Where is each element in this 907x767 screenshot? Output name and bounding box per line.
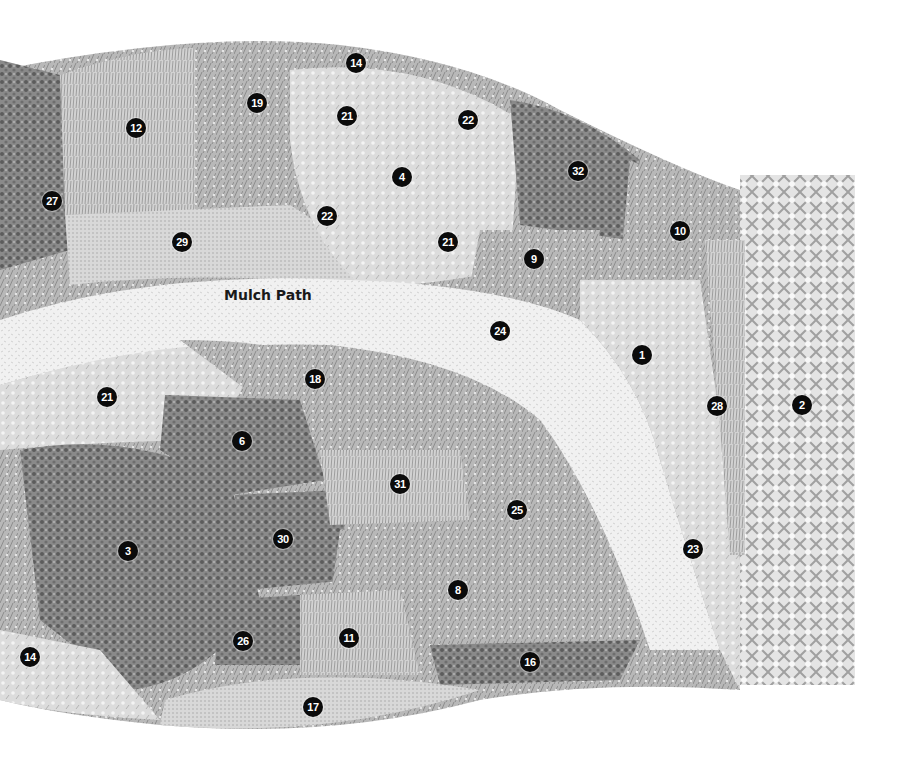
- plant-number-marker: 12: [126, 118, 146, 138]
- plant-number-marker: 8: [448, 580, 468, 600]
- plant-number-marker: 26: [233, 631, 253, 651]
- garden-illustration: [0, 0, 907, 767]
- plant-number-marker: 21: [97, 387, 117, 407]
- plant-number-marker: 14: [20, 647, 40, 667]
- plant-number-marker: 10: [670, 221, 690, 241]
- plant-number-marker: 25: [507, 500, 527, 520]
- plant-number-marker: 30: [273, 529, 293, 549]
- bed-11: [300, 590, 420, 675]
- plant-number-marker: 18: [305, 369, 325, 389]
- plant-number-marker: 22: [458, 110, 478, 130]
- plant-number-marker: 28: [707, 396, 727, 416]
- bed-19: [195, 42, 300, 210]
- plant-number-marker: 32: [568, 161, 588, 181]
- plant-number-marker: 23: [683, 539, 703, 559]
- bed-27: [0, 60, 70, 270]
- plant-number-marker: 29: [172, 232, 192, 252]
- plant-number-marker: 3: [118, 541, 138, 561]
- plant-number-marker: 22: [317, 206, 337, 226]
- plant-number-marker: 11: [339, 628, 359, 648]
- plant-number-marker: 21: [337, 106, 357, 126]
- plant-number-marker: 4: [392, 167, 412, 187]
- plant-number-marker: 6: [232, 431, 252, 451]
- mulch-path-label: Mulch Path: [224, 287, 312, 303]
- plant-number-marker: 14: [346, 53, 366, 73]
- plant-number-marker: 1: [632, 345, 652, 365]
- plant-number-marker: 19: [247, 93, 267, 113]
- plant-number-marker: 9: [524, 249, 544, 269]
- plant-number-marker: 24: [490, 321, 510, 341]
- plant-number-marker: 16: [520, 652, 540, 672]
- plant-number-marker: 27: [42, 191, 62, 211]
- bed-26: [215, 595, 300, 665]
- plant-number-marker: 21: [438, 232, 458, 252]
- plant-number-marker: 17: [303, 697, 323, 717]
- bed-2-trellis: [740, 175, 855, 685]
- plant-number-marker: 31: [390, 474, 410, 494]
- plant-number-marker: 2: [792, 395, 812, 415]
